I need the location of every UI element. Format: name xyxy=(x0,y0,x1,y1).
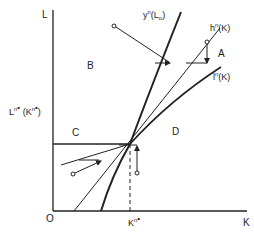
h-curve-label: hn(K) xyxy=(210,22,230,33)
trajectory-b xyxy=(116,27,169,62)
y-tick-label: Ln• (Kn•) xyxy=(9,103,41,117)
region-d-label: D xyxy=(172,126,179,137)
x-tick-label: Kn• xyxy=(128,214,140,228)
y-axis-label: L xyxy=(42,9,48,20)
trajectory-start-d xyxy=(135,171,139,175)
y-curve-label: yn(Lo) xyxy=(143,9,165,21)
trajectory-start-b xyxy=(112,24,116,28)
x-axis-label: K xyxy=(243,217,250,228)
y-curve xyxy=(101,12,181,211)
trajectory-c xyxy=(75,161,101,173)
phase-diagram: L K O Kn• Ln• (Kn•) yn(Lo) hn(K) ln(K) A… xyxy=(0,0,254,232)
region-c-label: C xyxy=(72,127,79,138)
origin-label: O xyxy=(46,213,54,224)
region-a-label: A xyxy=(218,48,225,59)
h-curve xyxy=(74,28,220,211)
trajectory-start-c xyxy=(71,172,75,176)
l-curve-label: ln(K) xyxy=(213,71,230,82)
trajectory-start-a xyxy=(205,40,209,44)
region-b-label: B xyxy=(87,60,94,71)
